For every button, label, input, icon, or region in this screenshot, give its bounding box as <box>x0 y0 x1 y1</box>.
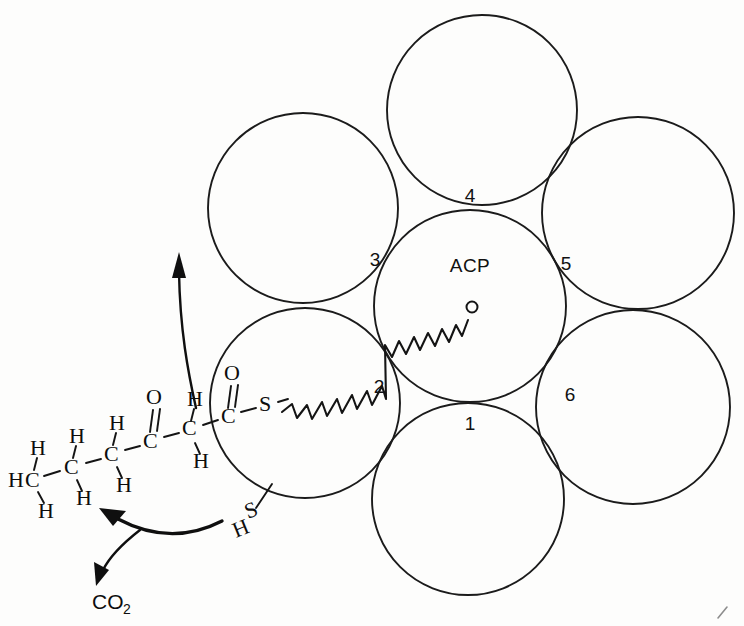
bond-c6-s <box>241 408 256 412</box>
bond-c5-c6 <box>203 420 218 425</box>
co2-release-arrow: CO 2 <box>92 508 222 617</box>
site-number-6: 6 <box>565 384 576 405</box>
subunit-circles <box>208 15 734 595</box>
subunit-upper-left-circle <box>208 113 398 303</box>
atom-h-terminal: H <box>8 467 24 492</box>
bond-c4-c5 <box>164 433 179 437</box>
substrate-atom-labels: H C H H C H H C H H C O C H H C O S <box>8 360 271 523</box>
atom-c2: C <box>64 454 79 479</box>
atom-s-thioester: S <box>259 391 271 416</box>
atom-o-c6: O <box>224 360 240 385</box>
bond-c3-c4 <box>125 446 140 450</box>
atom-c6: C <box>221 403 236 428</box>
fatty-acid-synthase-diagram: ACP 1 2 3 4 5 6 S H <box>0 0 744 626</box>
atom-h-c1-down: H <box>38 498 54 523</box>
co2-arrow-branch-shaft <box>103 530 140 570</box>
site-number-3: 3 <box>370 249 381 270</box>
phosphopantetheine-terminus-icon <box>467 302 478 313</box>
subunit-lower-right-circle <box>536 310 730 504</box>
release-arrow-head <box>172 252 186 278</box>
atom-c4: C <box>143 428 158 453</box>
phosphopantetheine-arm-path <box>282 320 468 419</box>
site-number-5: 5 <box>561 253 572 274</box>
atom-h-c3-down: H <box>116 472 132 497</box>
co2-arrow-main-shaft <box>118 519 222 534</box>
thiol-group: S H <box>229 484 272 543</box>
atom-c3: C <box>104 441 119 466</box>
co2-label: CO <box>92 590 124 613</box>
bond-c1-c2 <box>44 471 60 476</box>
atom-h-c3-up: H <box>109 410 125 435</box>
atom-o-c4: O <box>146 384 162 409</box>
atom-h-c5-down: H <box>193 448 209 473</box>
acp-core-circle <box>374 210 566 402</box>
phosphopantetheine-arm <box>282 302 478 420</box>
bond-c2-c3 <box>86 459 101 463</box>
atom-c5: C <box>182 415 197 440</box>
site-number-1: 1 <box>465 413 476 434</box>
site-number-4: 4 <box>465 185 476 206</box>
release-arrow <box>172 252 196 408</box>
co2-subscript: 2 <box>123 601 131 617</box>
figure-root: ACP 1 2 3 4 5 6 S H <box>0 0 744 626</box>
atom-h-c1-up: H <box>30 435 46 460</box>
thiol-bond <box>256 484 272 508</box>
atom-h-c2-up: H <box>69 423 85 448</box>
acp-core-label: ACP <box>450 255 491 276</box>
page-corner-mark <box>718 607 727 618</box>
co2-arrow-main-head <box>99 508 126 526</box>
atom-h-c2-down: H <box>76 485 92 510</box>
atom-c1: C <box>25 467 40 492</box>
bond-s-arm <box>278 399 288 402</box>
